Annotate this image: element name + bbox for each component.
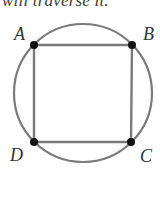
inscribed-square-diagram: A B C D — [0, 0, 160, 209]
vertex-label-a: A — [13, 24, 26, 44]
vertex-label-c: C — [140, 146, 153, 166]
vertex-label-d: D — [9, 145, 23, 165]
vertex-c-point — [127, 138, 135, 146]
vertex-a-point — [30, 41, 38, 49]
vertex-label-b: B — [143, 24, 154, 44]
square-abcd — [34, 45, 132, 142]
vertex-d-point — [30, 138, 38, 146]
vertex-b-point — [128, 41, 136, 49]
